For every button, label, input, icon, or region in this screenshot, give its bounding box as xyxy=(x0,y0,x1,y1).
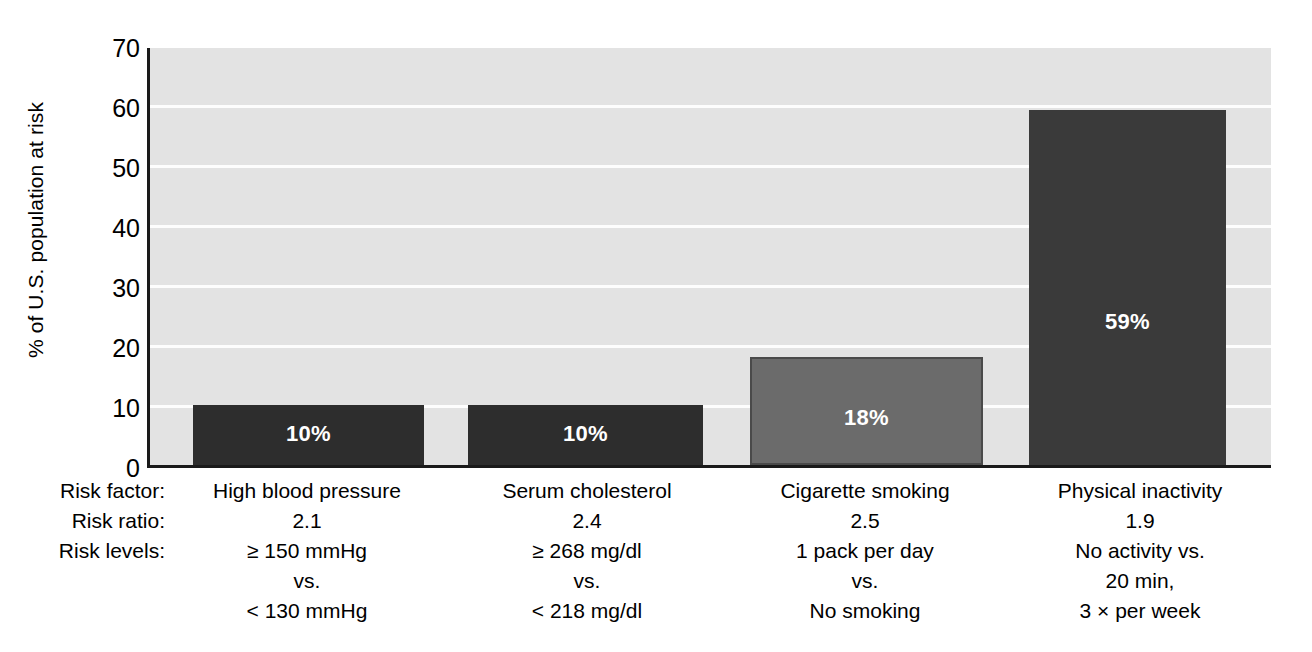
table-column-serum-cholesterol: Serum cholesterol 2.4 ≥ 268 mg/dl vs. < … xyxy=(452,476,722,626)
y-tick-70: 70 xyxy=(78,36,140,61)
chart-figure: % of U.S. population at risk 70 60 50 40… xyxy=(0,0,1312,652)
cell-risk-ratio-4: 1.9 xyxy=(1005,506,1275,536)
cell-risk-level-vs-4: 20 min, xyxy=(1005,566,1275,596)
table-column-physical-inactivity: Physical inactivity 1.9 No activity vs. … xyxy=(1005,476,1275,626)
cell-risk-level-high-3: 1 pack per day xyxy=(730,536,1000,566)
bar-value-label-4: 59% xyxy=(1105,309,1150,335)
row-label-risk-factor: Risk factor: xyxy=(0,476,165,506)
table-column-cigarette-smoking: Cigarette smoking 2.5 1 pack per day vs.… xyxy=(730,476,1000,626)
cell-risk-ratio-1: 2.1 xyxy=(172,506,442,536)
y-tick-30: 30 xyxy=(78,276,140,301)
bar-value-label-1: 10% xyxy=(286,421,331,447)
cell-risk-level-low-2: < 218 mg/dl xyxy=(452,596,722,626)
bar-physical-inactivity[interactable]: 59% xyxy=(1029,110,1226,465)
cell-risk-factor-2: Serum cholesterol xyxy=(452,476,722,506)
cell-risk-level-high-1: ≥ 150 mmHg xyxy=(172,536,442,566)
y-tick-40: 40 xyxy=(78,216,140,241)
bar-value-label-3: 18% xyxy=(844,405,889,431)
cell-risk-level-vs-3: vs. xyxy=(730,566,1000,596)
bar-value-label-2: 10% xyxy=(563,421,608,447)
row-label-risk-levels: Risk levels: xyxy=(0,536,165,566)
cell-risk-level-low-1: < 130 mmHg xyxy=(172,596,442,626)
cell-risk-factor-4: Physical inactivity xyxy=(1005,476,1275,506)
table-column-high-blood-pressure: High blood pressure 2.1 ≥ 150 mmHg vs. <… xyxy=(172,476,442,626)
y-tick-50: 50 xyxy=(78,156,140,181)
y-tick-10: 10 xyxy=(78,396,140,421)
bar-serum-cholesterol[interactable]: 10% xyxy=(468,405,703,465)
y-tick-60: 60 xyxy=(78,96,140,121)
bar-cigarette-smoking[interactable]: 18% xyxy=(750,357,983,465)
row-label-risk-ratio: Risk ratio: xyxy=(0,506,165,536)
cell-risk-ratio-3: 2.5 xyxy=(730,506,1000,536)
cell-risk-level-vs-2: vs. xyxy=(452,566,722,596)
cell-risk-level-low-4: 3 × per week xyxy=(1005,596,1275,626)
cell-risk-level-vs-1: vs. xyxy=(172,566,442,596)
cell-risk-level-high-2: ≥ 268 mg/dl xyxy=(452,536,722,566)
table-row-labels: Risk factor: Risk ratio: Risk levels: xyxy=(0,476,165,566)
y-tick-20: 20 xyxy=(78,336,140,361)
gridline-60 xyxy=(150,105,1271,108)
cell-risk-ratio-2: 2.4 xyxy=(452,506,722,536)
cell-risk-level-low-3: No smoking xyxy=(730,596,1000,626)
cell-risk-factor-3: Cigarette smoking xyxy=(730,476,1000,506)
bar-high-blood-pressure[interactable]: 10% xyxy=(193,405,424,465)
cell-risk-level-high-4: No activity vs. xyxy=(1005,536,1275,566)
plot-area: 10% 10% 18% 59% xyxy=(147,48,1271,468)
cell-risk-factor-1: High blood pressure xyxy=(172,476,442,506)
y-axis-title: % of U.S. population at risk xyxy=(24,20,64,440)
